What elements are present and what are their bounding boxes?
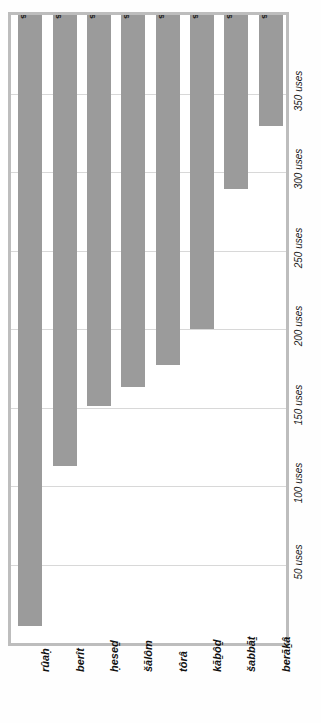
category-label: berît (74, 650, 86, 674)
bar-rect (156, 15, 180, 365)
axis-tick-label: 100 uses (293, 463, 304, 504)
bar-value-label: 389 uses (19, 12, 30, 39)
bar-rect (121, 15, 145, 387)
bar-chart: 389 uses287 uses249 uses237 uses223 uses… (0, 0, 321, 723)
category-label: ḥeseḏ (108, 650, 120, 674)
category-label: rûaḥ (39, 650, 51, 674)
category-label: šabbāṯ (245, 650, 257, 674)
bar-value-label: 71 uses (260, 12, 271, 37)
bar-rect (190, 15, 214, 329)
category-axis: rûaḥberîtḥeseḏšālômtôrâkāḇôḏšabbāṯberāḵâ (8, 650, 289, 723)
bar-value-label: 237 uses (122, 12, 133, 39)
value-axis: 50 uses100 uses150 uses200 uses250 uses3… (291, 12, 321, 646)
bar-value-label: 287 uses (54, 12, 65, 39)
bar-value-label: 223 uses (157, 12, 168, 39)
bar-value-label: 111 uses (225, 12, 236, 39)
category-label: berāḵâ (280, 650, 292, 674)
axis-tick-label: 350 uses (293, 70, 304, 111)
axis-tick-label: 200 uses (293, 306, 304, 347)
axis-tick-label: 250 uses (293, 227, 304, 268)
bar-rect (224, 15, 248, 189)
category-label: šālôm (142, 650, 154, 674)
category-label: kāḇôḏ (211, 650, 223, 674)
axis-tick-label: 300 uses (293, 149, 304, 190)
bar-series-group: 389 uses287 uses249 uses237 uses223 uses… (11, 15, 286, 643)
plot-area: 389 uses287 uses249 uses237 uses223 uses… (8, 12, 289, 646)
bar-rect (87, 15, 111, 406)
bar-value-label: 200 uses (191, 12, 202, 39)
axis-tick-label: 150 uses (293, 384, 304, 425)
category-label: tôrâ (177, 650, 189, 674)
axis-tick-label: 50 uses (293, 544, 304, 579)
bar-value-label: 249 uses (88, 12, 99, 39)
bar-rect (53, 15, 77, 466)
bar-rect (18, 15, 42, 626)
